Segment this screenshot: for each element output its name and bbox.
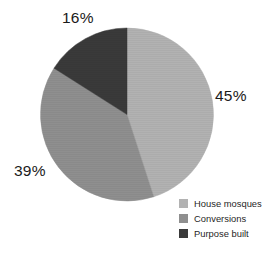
chart-legend: House mosques Conversions Purpose built: [179, 196, 278, 241]
pie-texture-overlay: [41, 28, 214, 201]
legend-label-conversions: Conversions: [194, 213, 246, 224]
slice-value-label-purpose-built: 16%: [62, 10, 94, 26]
legend-item-purpose-built: Purpose built: [179, 226, 278, 240]
pie-texture-circle: [41, 28, 214, 201]
legend-label-purpose-built: Purpose built: [194, 228, 249, 239]
legend-item-house-mosques: House mosques: [179, 196, 278, 210]
slice-value-label-house-mosques: 45%: [215, 88, 247, 104]
legend-item-conversions: Conversions: [179, 211, 278, 225]
slice-value-label-conversions: 39%: [14, 163, 46, 179]
pie-chart-figure: 45% 39% 16% House mosques Conversions Pu…: [0, 0, 280, 257]
legend-swatch-icon-house-mosques: [179, 199, 188, 208]
legend-swatch-icon-conversions: [179, 214, 188, 223]
legend-swatch-icon-purpose-built: [179, 229, 188, 238]
legend-label-house-mosques: House mosques: [194, 198, 262, 209]
